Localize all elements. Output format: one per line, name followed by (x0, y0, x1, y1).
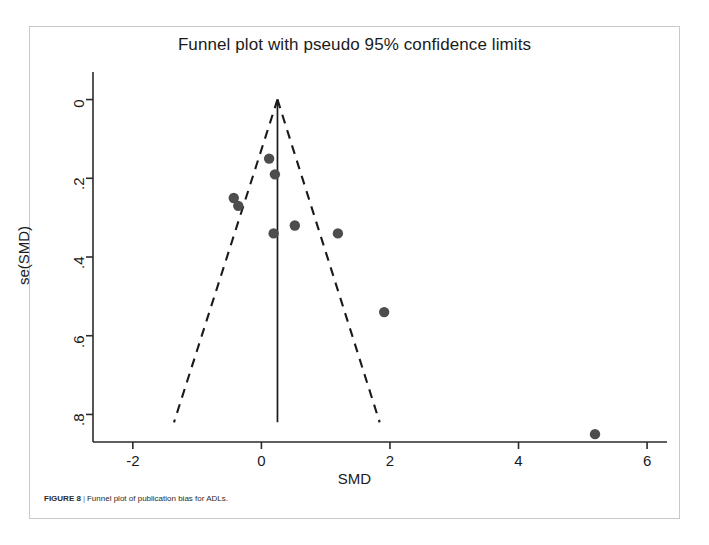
caption-label: FIGURE 8 (44, 494, 81, 503)
x-axis-label: SMD (0, 470, 709, 487)
study-point (590, 429, 600, 439)
study-point (268, 228, 278, 238)
x-tick-label: -2 (113, 452, 153, 469)
study-markers (229, 153, 601, 439)
ci-limit-right (277, 100, 379, 423)
study-point (290, 220, 300, 230)
y-tick-label: 0 (70, 99, 87, 139)
x-axis-ticks (133, 442, 647, 449)
x-tick-label: 2 (370, 452, 410, 469)
figure-page: Funnel plot with pseudo 95% confidence l… (0, 0, 709, 545)
x-tick-label: 6 (627, 452, 667, 469)
study-point (333, 228, 343, 238)
ci-limit-left (174, 100, 277, 423)
x-tick-label: 4 (499, 452, 539, 469)
study-point (233, 201, 243, 211)
y-axis-ticks (86, 100, 93, 415)
y-tick-label: .6 (70, 335, 87, 375)
caption-text: Funnel plot of publication bias for ADLs… (87, 494, 228, 503)
y-axis-label: se(SMD) (15, 216, 32, 296)
figure-caption: FIGURE 8|Funnel plot of publication bias… (44, 494, 228, 503)
study-point (379, 307, 389, 317)
x-tick-label: 0 (241, 452, 281, 469)
y-tick-label: .4 (70, 257, 87, 297)
funnel-plot-canvas (0, 0, 709, 545)
study-point (270, 169, 280, 179)
study-point (264, 153, 274, 163)
y-tick-label: .2 (70, 178, 87, 218)
y-tick-label: .8 (70, 414, 87, 454)
